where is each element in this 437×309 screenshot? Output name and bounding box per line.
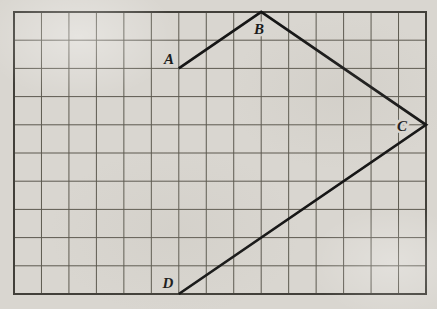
point-label-D: D <box>162 275 174 291</box>
grid-lines <box>14 12 426 294</box>
point-label-B: B <box>253 21 264 37</box>
point-label-A: A <box>163 51 174 67</box>
worksheet-page: A B C D <box>0 0 437 309</box>
grid-figure: A B C D <box>0 0 437 309</box>
point-label-C: C <box>397 118 408 134</box>
